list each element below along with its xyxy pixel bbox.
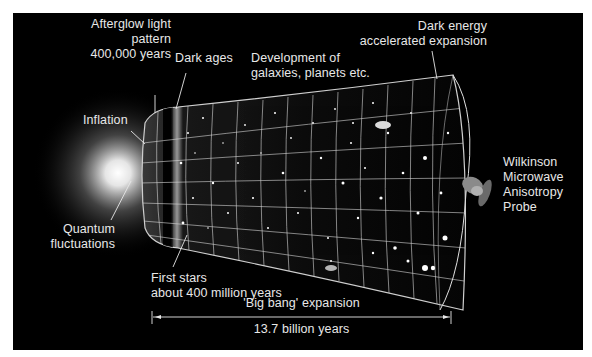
label-quantum-line2: fluctuations xyxy=(33,237,115,252)
label-dark-energy: Dark energy accelerated expansion xyxy=(353,19,487,49)
label-development: Development of galaxies, planets etc. xyxy=(251,51,370,81)
label-duration: 13.7 billion years xyxy=(152,322,451,337)
label-wmap: Wilkinson Microwave Anisotropy Probe xyxy=(503,155,564,215)
label-afterglow-line3: 400,000 years xyxy=(81,47,171,62)
label-afterglow-line2: pattern xyxy=(81,32,171,47)
label-first-stars-line1: First stars xyxy=(151,271,282,286)
label-quantum: Quantum fluctuations xyxy=(33,222,115,252)
label-dark-energy-line1: Dark energy xyxy=(353,19,487,34)
label-afterglow-line1: Afterglow light xyxy=(81,17,171,32)
label-development-line2: galaxies, planets etc. xyxy=(251,66,370,81)
label-wmap-line4: Probe xyxy=(503,200,564,215)
universe-diagram-panel: Afterglow light pattern 400,000 years Da… xyxy=(13,13,583,350)
label-quantum-line1: Quantum xyxy=(33,222,115,237)
label-wmap-line2: Microwave xyxy=(503,170,564,185)
dark-ages-pointer xyxy=(176,73,186,109)
label-inflation: Inflation xyxy=(83,113,128,128)
label-wmap-line1: Wilkinson xyxy=(503,155,564,170)
label-development-line1: Development of xyxy=(251,51,370,66)
label-dark-energy-line2: accelerated expansion xyxy=(353,34,487,49)
label-dark-ages: Dark ages xyxy=(175,51,233,66)
label-wmap-line3: Anisotropy xyxy=(503,185,564,200)
dark-energy-pointer xyxy=(432,51,437,79)
label-afterglow: Afterglow light pattern 400,000 years xyxy=(81,17,171,62)
label-expansion: 'Big bang' expansion xyxy=(152,296,451,311)
